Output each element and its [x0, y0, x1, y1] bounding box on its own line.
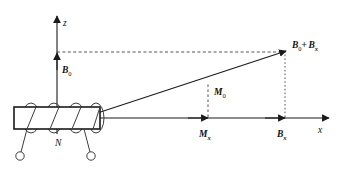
- resultant-label-second-subscript: x: [314, 45, 319, 52]
- m0-label: M0: [213, 87, 226, 99]
- m0-vector-arrowhead: [196, 83, 209, 87]
- z-axis-label: z: [62, 18, 67, 28]
- resultant-label: B0+Bx: [291, 40, 319, 52]
- b0-label: B0: [61, 65, 72, 77]
- mx-label: Mx: [198, 129, 211, 141]
- bx-label-symbol: B: [276, 129, 283, 139]
- b0-label-subscript: 0: [68, 70, 71, 77]
- mx-label-subscript: x: [206, 134, 211, 141]
- b0-label-symbol: B: [61, 65, 68, 75]
- bx-label-subscript: x: [282, 134, 287, 141]
- resultant-label-second: B: [308, 40, 315, 50]
- m0-label-subscript: 0: [222, 92, 225, 99]
- coil-label-n: N: [54, 138, 62, 148]
- resultant-label-first: B: [291, 40, 298, 50]
- x-axis-label: x: [317, 125, 323, 135]
- magnetic-field-diagram: z x B0 M0 Mx Bx B0+Bx N: [0, 0, 341, 174]
- solenoid-body: [14, 107, 100, 129]
- bx-label: Bx: [276, 129, 287, 141]
- resultant-label-operator: +: [302, 40, 307, 50]
- figure-canvas: z x B0 M0 Mx Bx B0+Bx N: [0, 0, 341, 174]
